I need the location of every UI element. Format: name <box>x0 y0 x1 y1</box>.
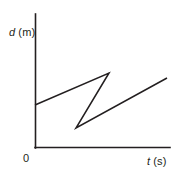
x-axis-unit: (s) <box>150 155 166 167</box>
y-axis-label: d (m) <box>9 26 35 39</box>
origin-label: 0 <box>23 152 29 165</box>
data-line-sawtooth <box>35 73 167 128</box>
distance-time-graph-figure: d (m) t (s) 0 <box>0 0 176 174</box>
x-axis-label: t (s) <box>147 155 166 168</box>
y-axis-unit: (m) <box>15 26 35 38</box>
